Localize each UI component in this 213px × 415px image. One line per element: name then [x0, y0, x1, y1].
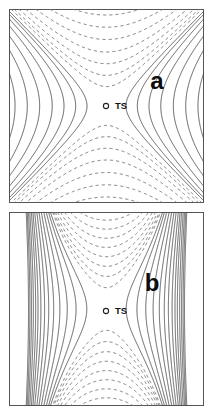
- contour-line: [9, 14, 76, 198]
- contour-line: [50, 9, 164, 27]
- contour-line: [70, 212, 143, 229]
- contour-line: [36, 173, 178, 204]
- contour-line: [9, 35, 40, 176]
- panel-b-plot: TS b: [9, 212, 204, 406]
- contour-line: [14, 137, 199, 203]
- contour-line: [173, 35, 204, 176]
- contour-line: [70, 389, 143, 406]
- panel-a-frame: [10, 10, 204, 203]
- panel-a-ts-marker: [103, 103, 108, 108]
- panel-b-ts-label: TS: [115, 305, 127, 316]
- contour-line: [57, 212, 155, 257]
- panel-a-ts-label: TS: [115, 100, 127, 111]
- contour-line: [57, 361, 155, 406]
- panel-a-plot: TS a: [9, 9, 204, 203]
- contour-line: [60, 371, 152, 406]
- panel-b-letter: b: [145, 269, 160, 296]
- panel-b-ts-marker: [103, 308, 108, 313]
- contour-line: [14, 9, 199, 75]
- contour-line: [46, 212, 67, 406]
- contour-line: [137, 212, 165, 406]
- contour-line: [26, 160, 188, 203]
- contour-line: [36, 9, 178, 40]
- contour-line: [54, 342, 160, 406]
- contour-line: [54, 212, 160, 276]
- contour-line: [19, 9, 195, 64]
- contour-line: [79, 398, 133, 406]
- contour-line: [126, 212, 162, 406]
- panel-b: TS b: [9, 212, 204, 406]
- contour-line: [137, 14, 204, 198]
- contour-line: [186, 49, 204, 162]
- contour-line: [50, 185, 164, 203]
- contour-figure: TS a TS b: [0, 0, 213, 415]
- panel-a: TS a: [9, 9, 204, 203]
- panel-a-solid-contours: [9, 11, 204, 201]
- contour-line: [50, 212, 86, 406]
- contour-line: [9, 19, 64, 194]
- contour-line: [26, 9, 188, 52]
- contour-line: [49, 212, 77, 406]
- contour-line: [79, 212, 133, 220]
- contour-line: [19, 148, 195, 203]
- contour-line: [53, 330, 161, 406]
- contour-line: [146, 212, 167, 406]
- contour-line: [9, 49, 27, 162]
- contour-line: [60, 212, 152, 247]
- panel-a-letter: a: [150, 67, 164, 94]
- contour-line: [149, 19, 204, 194]
